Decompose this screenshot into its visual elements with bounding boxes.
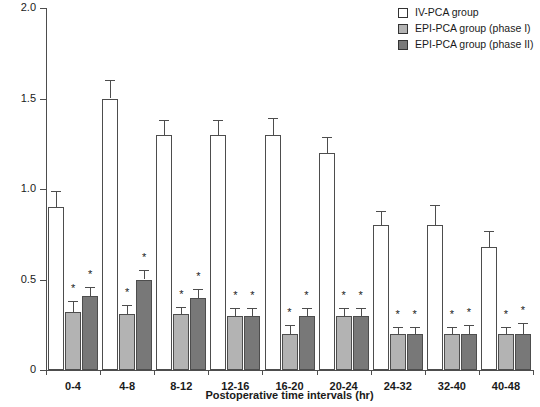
x-axis-tick	[262, 370, 263, 375]
y-axis-tick: 1.0	[40, 189, 46, 190]
significance-marker: *	[504, 311, 508, 317]
error-bar-cap	[356, 308, 366, 309]
bar	[461, 334, 477, 370]
significance-marker: *	[88, 271, 92, 277]
y-axis-tick: 1.5	[40, 99, 46, 100]
significance-marker: *	[396, 311, 400, 317]
x-axis-tick	[533, 370, 534, 375]
error-bar	[235, 308, 236, 315]
y-axis-line	[46, 8, 47, 370]
bar	[427, 225, 443, 370]
bar	[373, 225, 389, 370]
significance-marker: *	[142, 254, 146, 260]
bar	[353, 316, 369, 370]
error-bar	[73, 301, 74, 312]
bar	[299, 316, 315, 370]
significance-marker: *	[467, 309, 471, 315]
error-bar	[110, 80, 111, 98]
bar	[407, 334, 423, 370]
x-axis-tick-label: 40-48	[492, 380, 520, 392]
significance-marker: *	[304, 292, 308, 298]
bar	[156, 135, 172, 370]
bar	[319, 153, 335, 370]
y-axis-tick: 2.0	[40, 8, 46, 9]
x-axis-tick-label: 16-20	[275, 380, 303, 392]
x-axis-tick-label: 12-16	[221, 380, 249, 392]
error-bar	[452, 327, 453, 334]
y-axis-tick: 0.5	[40, 280, 46, 281]
error-bar-cap	[247, 308, 257, 309]
bar	[102, 99, 118, 371]
x-axis-tick-label: 24-32	[384, 380, 412, 392]
error-bar	[273, 118, 274, 134]
y-axis-tick-label: 0.5	[21, 273, 36, 285]
y-axis-tick-label: 1.0	[21, 182, 36, 194]
bar	[244, 316, 260, 370]
bar	[444, 334, 460, 370]
error-bar-cap	[464, 325, 474, 326]
significance-marker: *	[179, 291, 183, 297]
x-axis-tick	[208, 370, 209, 375]
significance-marker: *	[196, 273, 200, 279]
bar	[210, 135, 226, 370]
x-axis-tick	[317, 370, 318, 375]
error-bar-cap	[410, 327, 420, 328]
error-bar-cap	[501, 327, 511, 328]
error-bar-cap	[85, 287, 95, 288]
error-bar-cap	[268, 118, 278, 119]
bar	[336, 316, 352, 370]
error-bar	[361, 308, 362, 315]
x-axis-tick	[425, 370, 426, 375]
bar	[227, 316, 243, 370]
error-bar	[415, 327, 416, 334]
significance-marker: *	[233, 292, 237, 298]
x-axis-tick	[479, 370, 480, 375]
significance-marker: *	[413, 311, 417, 317]
x-axis-tick-label: 32-40	[438, 380, 466, 392]
error-bar-cap	[322, 137, 332, 138]
x-axis-tick-label: 8-12	[170, 380, 192, 392]
bar	[48, 207, 64, 370]
error-bar-cap	[230, 308, 240, 309]
hydromorphone-bar-chart: IV-PCA groupEPI-PCA group (phase I)EPI-P…	[0, 0, 540, 407]
error-bar	[56, 191, 57, 207]
bar	[515, 334, 531, 370]
error-bar	[164, 120, 165, 134]
plot-area: 00.51.01.52.00-4**4-8**8-12**12-16**16-2…	[46, 8, 533, 370]
error-bar	[398, 327, 399, 334]
error-bar-cap	[51, 191, 61, 192]
error-bar-cap	[159, 120, 169, 121]
x-axis-line	[46, 370, 533, 371]
x-axis-tick-label: 4-8	[119, 380, 135, 392]
bar	[136, 280, 152, 371]
x-axis-tick	[371, 370, 372, 375]
error-bar-cap	[518, 323, 528, 324]
error-bar	[90, 287, 91, 296]
error-bar	[252, 308, 253, 315]
error-bar	[381, 211, 382, 225]
error-bar-cap	[176, 307, 186, 308]
significance-marker: *	[450, 311, 454, 317]
error-bar-cap	[430, 205, 440, 206]
y-axis-tick-label: 1.5	[21, 92, 36, 104]
error-bar-cap	[393, 327, 403, 328]
y-axis-tick-label: 0	[30, 363, 36, 375]
error-bar	[218, 120, 219, 134]
error-bar	[307, 308, 308, 315]
error-bar-cap	[122, 305, 132, 306]
error-bar	[435, 205, 436, 225]
error-bar-cap	[339, 308, 349, 309]
error-bar	[181, 307, 182, 314]
significance-marker: *	[71, 285, 75, 291]
x-axis-tick	[100, 370, 101, 375]
x-axis-tick	[46, 370, 47, 375]
x-axis-tick-label: 0-4	[65, 380, 81, 392]
error-bar	[523, 323, 524, 334]
error-bar-cap	[68, 301, 78, 302]
bar	[82, 296, 98, 370]
significance-marker: *	[521, 307, 525, 313]
bar	[390, 334, 406, 370]
y-axis-tick-label: 2.0	[21, 1, 36, 13]
error-bar-cap	[447, 327, 457, 328]
bar	[119, 314, 135, 370]
